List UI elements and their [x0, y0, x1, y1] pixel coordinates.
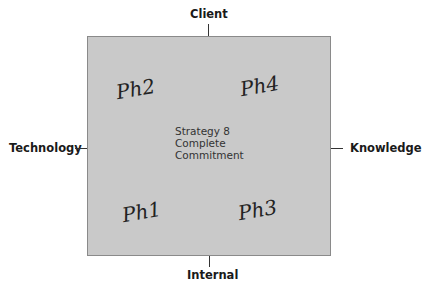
axis-label-top: Client [190, 7, 228, 21]
tick-bottom [209, 256, 210, 267]
center-label-line2: Complete [175, 137, 244, 149]
axis-label-right: Knowledge [350, 141, 422, 155]
axis-label-bottom: Internal [187, 268, 238, 282]
tick-left [75, 148, 87, 149]
center-label-line3: Commitment [175, 149, 244, 161]
center-label: Strategy 8 Complete Commitment [175, 125, 244, 161]
tick-right [331, 148, 343, 149]
center-label-line1: Strategy 8 [175, 125, 244, 137]
tick-top [208, 24, 209, 36]
axis-label-left: Technology [9, 141, 82, 155]
